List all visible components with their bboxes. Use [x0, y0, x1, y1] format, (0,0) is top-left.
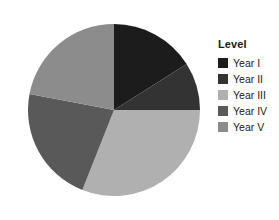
legend-item[interactable]: Year I: [218, 55, 278, 70]
legend-swatch-icon: [218, 58, 228, 68]
legend-item-label: Year V: [233, 121, 264, 133]
legend-swatch-icon: [218, 90, 228, 100]
legend-item[interactable]: Year II: [218, 71, 278, 86]
legend-item[interactable]: Year III: [218, 87, 278, 102]
legend-item-label: Year IV: [233, 105, 267, 117]
legend-item[interactable]: Year V: [218, 119, 278, 134]
legend-swatch-icon: [218, 74, 228, 84]
legend-item-list: Year IYear IIYear IIIYear IVYear V: [218, 55, 278, 134]
legend-title: Level: [218, 38, 278, 51]
pie-svg: [28, 10, 200, 210]
legend-item-label: Year I: [233, 57, 260, 69]
pie-chart: Level Year IYear IIYear IIIYear IVYear V: [0, 0, 279, 220]
legend-item[interactable]: Year IV: [218, 103, 278, 118]
pie-graphic: [28, 10, 200, 210]
legend-swatch-icon: [218, 106, 228, 116]
legend-item-label: Year II: [233, 73, 263, 85]
legend-swatch-icon: [218, 122, 228, 132]
legend-item-label: Year III: [233, 89, 266, 101]
chart-legend: Level Year IYear IIYear IIIYear IVYear V: [218, 38, 278, 135]
